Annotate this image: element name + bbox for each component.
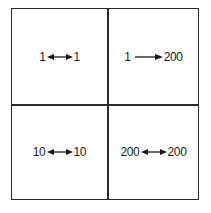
cell-left-value: 1 — [124, 50, 130, 64]
double-arrow-icon — [141, 148, 167, 156]
cell-top-left: 1 1 — [12, 9, 107, 104]
cell-left-value: 200 — [120, 145, 139, 159]
cell-top-right: 1 200 — [108, 9, 199, 104]
right-arrow-icon — [135, 53, 163, 61]
cell-right-value: 200 — [168, 145, 187, 159]
cell-bottom-left: 10 10 — [12, 105, 107, 199]
cell-right-value: 1 — [74, 50, 80, 64]
cell-left-value: 10 — [33, 145, 46, 159]
double-arrow-icon — [47, 148, 73, 156]
cell-right-value: 10 — [74, 145, 87, 159]
cell-left-value: 1 — [39, 50, 45, 64]
cell-bottom-right: 200 200 — [108, 105, 199, 199]
cell-right-value: 200 — [164, 50, 183, 64]
double-arrow-icon — [47, 53, 73, 61]
grid-diagram: 1 1 1 200 10 10 200 200 — [11, 8, 199, 200]
